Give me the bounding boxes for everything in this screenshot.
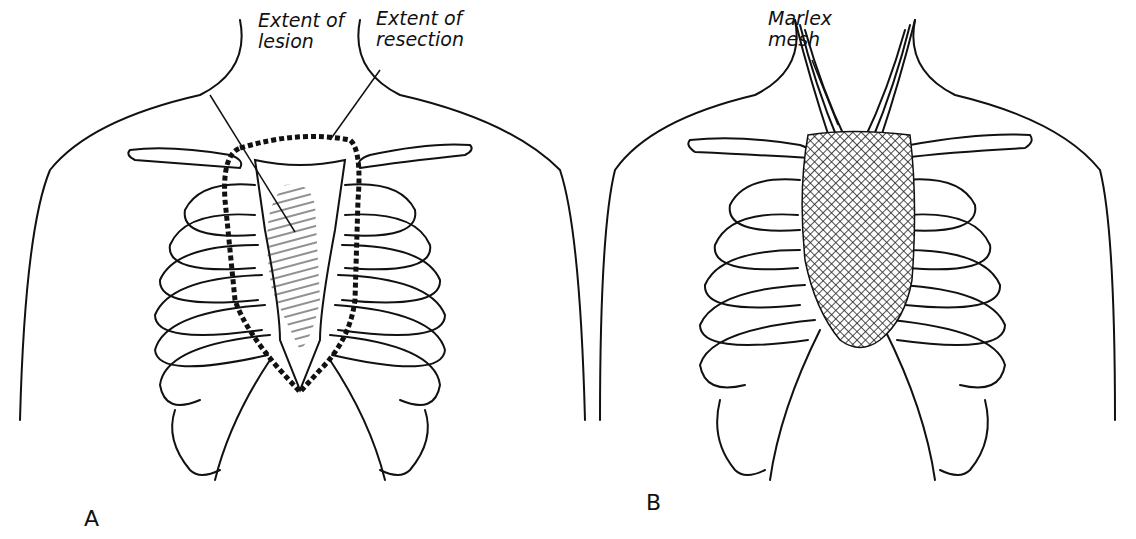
panel-label-a: A xyxy=(84,506,99,531)
ribs-left-a xyxy=(155,184,270,475)
label-marlex-mesh: Marlex mesh xyxy=(768,8,832,50)
label-extent-of-lesion: Extent of lesion xyxy=(258,10,344,52)
chest-wall-illustration xyxy=(0,0,1136,539)
label-extent-of-resection: Extent of resection xyxy=(376,8,464,50)
marlex-mesh-area xyxy=(802,132,914,348)
lesion-area xyxy=(267,184,320,350)
panel-label-b: B xyxy=(646,490,661,515)
